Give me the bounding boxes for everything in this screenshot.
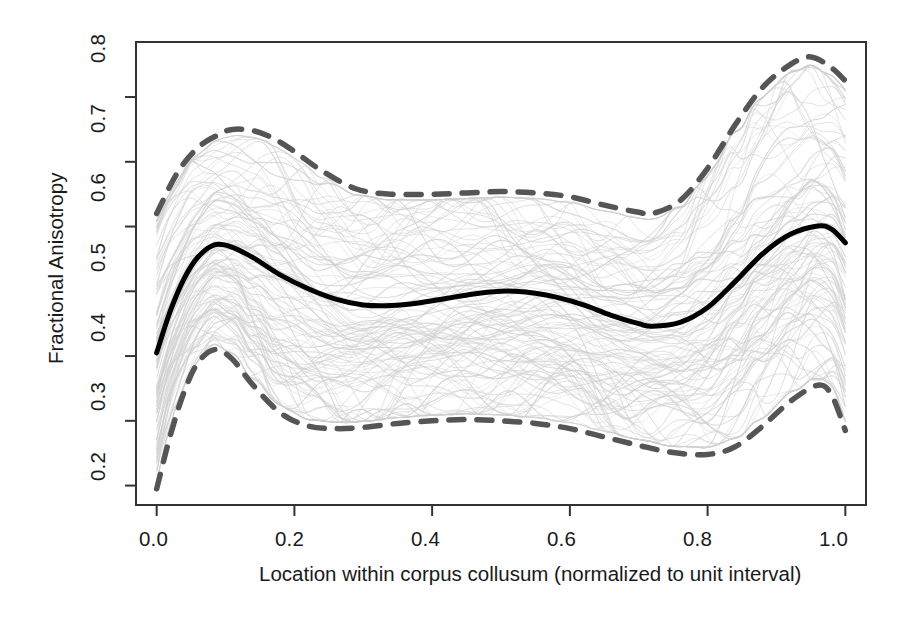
x-axis-label: Location within corpus collusum (normali… — [259, 562, 801, 586]
spaghetti-line — [157, 81, 846, 289]
chart-canvas — [0, 0, 917, 617]
y-tick-label-3: 0.5 — [86, 243, 110, 272]
y-tick-label-4: 0.6 — [86, 173, 110, 202]
x-tick-label-3: 0.6 — [547, 527, 576, 551]
y-axis-label: Fractional Anisotropy — [44, 173, 68, 364]
x-tick-label-1: 0.2 — [275, 527, 304, 551]
y-tick-label-5: 0.7 — [86, 104, 110, 133]
x-tick-label-2: 0.4 — [411, 527, 440, 551]
x-tick-label-0: 0.0 — [139, 527, 168, 551]
figure-container: 0.2 0.3 0.4 0.5 0.6 0.7 0.8 0.0 0.2 0.4 … — [0, 0, 917, 617]
y-tick-label-6: 0.8 — [86, 34, 110, 63]
y-tick-label-2: 0.4 — [86, 313, 110, 342]
x-tick-label-5: 1.0 — [819, 527, 848, 551]
spaghetti-line — [157, 67, 846, 304]
x-tick-label-4: 0.8 — [683, 527, 712, 551]
spaghetti-line — [157, 304, 846, 470]
spaghetti-line — [157, 82, 846, 286]
y-tick-label-1: 0.3 — [86, 382, 110, 411]
y-tick-label-0: 0.2 — [86, 452, 110, 481]
